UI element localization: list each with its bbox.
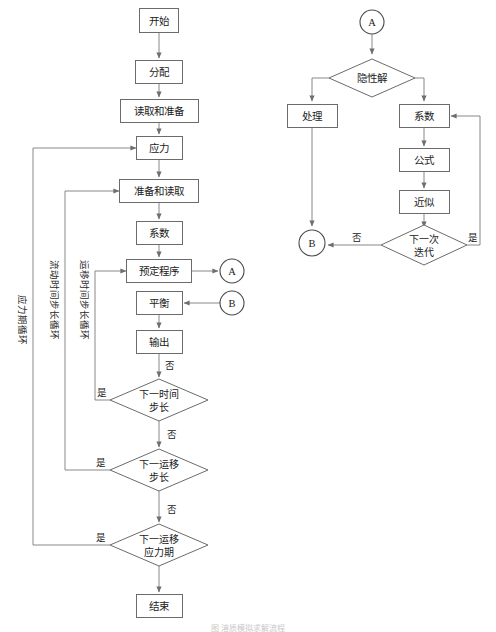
node-stress: 应力 [137, 137, 183, 160]
node-preset-program: 预定程序 [127, 260, 192, 283]
branch-label-no-1: 否 [165, 361, 175, 371]
connector-b-out: B [299, 230, 325, 256]
node-allocate: 分配 [136, 61, 183, 84]
node-allocate-label: 分配 [149, 67, 170, 78]
decision-next-transport-step: 下一运移 步长 [110, 449, 208, 491]
edge-implicit-to-coefficient [415, 78, 424, 101]
node-process: 处理 [288, 105, 338, 128]
node-balance-label: 平衡 [149, 298, 170, 309]
branch-label-no-3: 否 [167, 505, 177, 515]
node-coefficient-label: 系数 [149, 227, 170, 239]
left-flowchart: 开始 分配 读取和准备 应力 准备和读取 系数 [17, 9, 244, 618]
figure-flowchart: 开始 分配 读取和准备 应力 准备和读取 系数 [0, 0, 496, 632]
loop-label-flow-time-step: 流动时间步长循环 [49, 260, 60, 340]
decision-next-transport-step-line2: 步长 [149, 472, 169, 483]
connector-a: A [220, 259, 244, 283]
loop-label-transport-time-step: 运移时间步长循环 [79, 260, 90, 340]
decision-next-iteration-line2: 迭代 [414, 247, 434, 258]
decision-next-iteration-line1: 下一次 [409, 233, 439, 245]
decision-implicit-solution-label: 隐性解 [357, 72, 388, 84]
branch-label-yes-3: 是 [96, 533, 106, 543]
node-read-prepare: 读取和准备 [121, 100, 199, 123]
connector-a-label: A [228, 266, 236, 277]
right-flowchart: A 隐性解 处理 系数 公式 近似 [288, 10, 481, 265]
node-read-prepare-label: 读取和准备 [134, 105, 185, 117]
node-preset-program-label: 预定程序 [139, 265, 179, 277]
loop-label-stress-period: 应力期循环 [17, 295, 28, 345]
branch-label-iteration-no: 否 [352, 233, 362, 243]
edge-implicit-to-process [312, 78, 329, 101]
decision-next-iteration: 下一次 迭代 [381, 225, 467, 265]
decision-next-time-step: 下一时间 步长 [110, 379, 208, 421]
connector-b-out-label: B [308, 238, 315, 249]
node-start: 开始 [140, 9, 179, 33]
node-stress-label: 应力 [149, 142, 169, 154]
node-approximation: 近似 [400, 191, 450, 214]
decision-next-transport-step-shape [110, 449, 208, 491]
decision-implicit-solution: 隐性解 [329, 59, 415, 97]
decision-next-transport-step-line1: 下一运移 [139, 458, 179, 470]
edge-loop-flow-time-step [65, 191, 119, 470]
flowchart-canvas: 开始 分配 读取和准备 应力 准备和读取 系数 [0, 0, 496, 632]
node-prepare-read: 准备和读取 [120, 180, 199, 203]
decision-next-time-step-shape [110, 379, 208, 421]
node-formula: 公式 [400, 149, 450, 172]
right-edges [312, 34, 480, 245]
node-end: 结束 [137, 595, 183, 618]
node-balance: 平衡 [137, 292, 183, 315]
node-right-coefficient: 系数 [400, 105, 450, 128]
decision-next-transport-stress-shape [110, 524, 208, 566]
branch-label-yes-1: 是 [97, 388, 107, 398]
branch-label-no-2: 否 [167, 430, 177, 440]
node-right-coefficient-label: 系数 [414, 110, 435, 122]
node-start-label: 开始 [149, 15, 170, 27]
decision-next-transport-stress-line2: 应力期 [144, 546, 174, 558]
node-process-label: 处理 [302, 111, 323, 122]
decision-next-time-step-line1: 下一时间 [139, 388, 179, 400]
decision-next-iteration-shape [381, 225, 467, 265]
branch-label-iteration-yes: 是 [468, 233, 478, 243]
connector-b-label: B [228, 298, 235, 309]
connector-a-in-label: A [368, 17, 376, 28]
node-prepare-read-label: 准备和读取 [134, 185, 185, 197]
decision-next-transport-stress: 下一运移 应力期 [110, 524, 208, 566]
decision-next-time-step-line2: 步长 [149, 402, 169, 413]
node-end-label: 结束 [149, 600, 170, 612]
node-formula-label: 公式 [414, 154, 435, 166]
node-coefficient: 系数 [137, 222, 183, 245]
edge-loop-stress-period [33, 148, 136, 545]
decision-next-transport-stress-line1: 下一运移 [139, 533, 179, 545]
node-output-label: 输出 [149, 336, 169, 348]
edge-loop-transport-time-step [95, 271, 126, 400]
figure-caption: 图 溶质模拟求解流程 [211, 623, 285, 632]
node-output: 输出 [137, 331, 183, 354]
connector-b: B [220, 291, 244, 315]
branch-label-yes-2: 是 [96, 458, 106, 468]
node-approximation-label: 近似 [414, 196, 435, 208]
connector-a-in: A [360, 10, 384, 34]
edge-iteration-yes-loop [451, 116, 480, 245]
